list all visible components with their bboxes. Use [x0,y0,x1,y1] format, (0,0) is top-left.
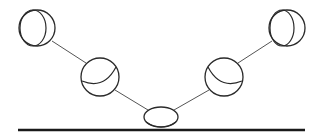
connector-line-1 [52,41,86,63]
impact-ball [144,107,178,127]
bouncing-ball-diagram [0,0,322,136]
ball-mid-left-outline [81,58,119,96]
diagram-canvas [0,0,322,136]
connector-line-4 [238,41,272,63]
connector-line-3 [174,90,209,110]
ball-mid-right [205,58,243,96]
ball-top-right-outline [269,10,305,46]
ball-top-left [19,10,55,46]
ball-top-right [269,10,305,46]
ball-mid-left [81,58,119,96]
connector-line-2 [115,90,148,110]
ball-mid-right-outline [205,58,243,96]
balls [19,10,305,96]
